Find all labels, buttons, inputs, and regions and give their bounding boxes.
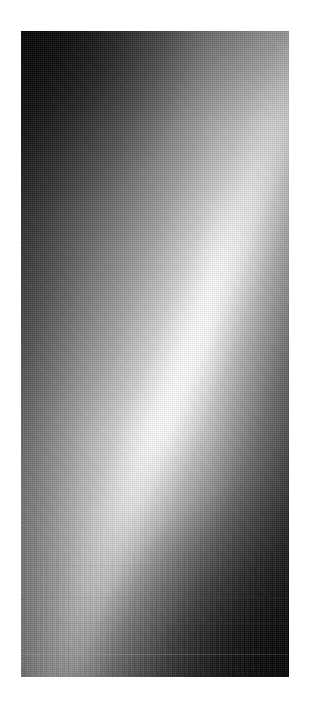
bright-diagonal-ridge [21,31,289,677]
vertical-streak-mottling [21,31,289,677]
dark-corner-top-left [21,31,289,677]
page-root [0,0,309,710]
scanline-upper [21,565,289,566]
dither-grain-texture [21,31,289,677]
diagonal-intensity-gradient [21,31,289,677]
scanline-bright [21,654,289,655]
grayscale-image-plate [21,31,289,677]
diagonal-halftone-texture [21,31,289,677]
scanline-mid [21,597,289,598]
scanline-bottom [21,668,289,669]
dark-corner-bottom-right [21,31,289,677]
horizontal-falloff-shading [21,31,289,677]
vertical-falloff-shading [21,31,289,677]
scanline-lower [21,623,289,624]
